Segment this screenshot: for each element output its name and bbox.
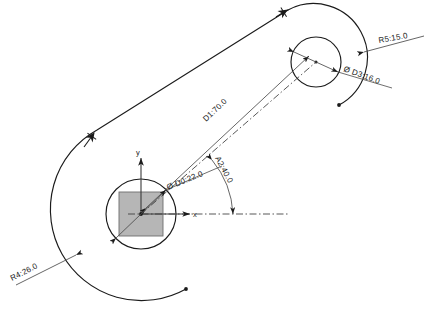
x-axis-label: x bbox=[193, 210, 197, 219]
y-axis-label: y bbox=[136, 148, 140, 157]
dimension-r5: R5:15.0 bbox=[364, 31, 424, 52]
outline-marker-top bbox=[276, 12, 284, 17]
dimension-d3-line bbox=[294, 52, 338, 72]
cad-sketch-svg: x y D1:70.0 Ø D0:22.0 A2:40.0 Ø D3:16.0 … bbox=[0, 0, 426, 318]
outline-direction-markers bbox=[84, 12, 284, 147]
dimension-d0-label: Ø D0:22.0 bbox=[165, 169, 204, 192]
part-outline bbox=[50, 4, 367, 301]
centerlines bbox=[128, 62, 316, 214]
dimension-d1-label: D1:70.0 bbox=[201, 97, 229, 124]
right-arc-endpoint-dot bbox=[337, 103, 341, 107]
dimension-r5-label: R5:15.0 bbox=[378, 31, 409, 45]
left-outer-arc bbox=[50, 10, 288, 301]
dimension-a2: A2:40.0 bbox=[212, 155, 235, 214]
dimension-r4-label: R4:26.0 bbox=[9, 261, 40, 283]
dimension-d3: Ø D3:16.0 bbox=[294, 52, 392, 88]
technical-drawing-canvas: x y D1:70.0 Ø D0:22.0 A2:40.0 Ø D3:16.0 … bbox=[0, 0, 426, 318]
left-arc-endpoint-dot bbox=[184, 287, 188, 291]
dimension-a2-label: A2:40.0 bbox=[213, 155, 235, 185]
